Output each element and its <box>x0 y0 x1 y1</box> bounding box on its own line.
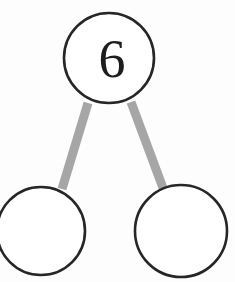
part-right-node-value <box>134 185 228 277</box>
number-bond-diagram: 6 <box>0 0 235 282</box>
connector-left <box>62 103 88 189</box>
connector-right <box>131 102 163 188</box>
whole-node-value: 6 <box>63 12 155 105</box>
part-left-node-value <box>0 187 86 276</box>
connector-group <box>62 102 163 189</box>
